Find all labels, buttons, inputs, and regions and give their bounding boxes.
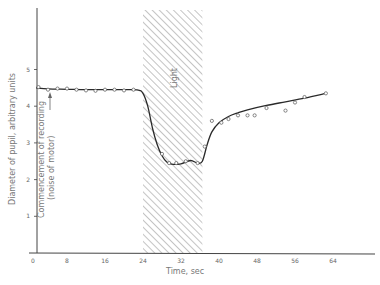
data-point [293,101,296,104]
x-tick-label: 56 [291,257,299,264]
x-tick-label: 24 [139,257,147,264]
light-stimulus-region [143,10,202,253]
data-point [210,119,213,122]
data-point [220,121,223,124]
y-tick-label: 1 [26,212,30,219]
x-tick-label: 0 [31,257,35,264]
data-point [265,106,268,109]
data-point [236,114,239,117]
x-axis-title: Time, sec [165,267,204,276]
data-point [227,117,230,120]
data-point [75,88,78,91]
data-point [46,88,49,91]
data-point [113,88,116,91]
x-tick-label: 64 [329,257,337,264]
data-point [175,161,178,164]
data-point [253,114,256,117]
y-tick-label: 3 [26,139,30,146]
x-tick-label: 40 [215,257,223,264]
data-point [160,152,163,155]
arrowhead-icon [48,92,52,98]
data-point [284,109,287,112]
x-tick-label: 48 [253,257,261,264]
data-point [196,161,199,164]
data-point [122,89,125,92]
data-point [65,87,68,90]
pupil-diameter-chart: 123450816243240485664 Light Commencement… [0,0,380,285]
y-tick-label: 4 [26,102,30,109]
annotation-commencement: Commencement of recording [37,101,46,218]
x-axis-line [29,253,375,254]
data-point [203,145,206,148]
light-region-label: Light [170,68,179,88]
x-tick-label: 16 [101,257,109,264]
data-point [168,161,171,164]
data-point [324,92,327,95]
data-point [303,95,306,98]
hatched-light-band [143,10,202,253]
data-point [246,114,249,117]
data-point [84,89,87,92]
data-point [56,87,59,90]
y-axis-title: Diameter of pupil, arbitrary units [8,73,17,205]
data-point [132,88,135,91]
data-point [37,86,40,89]
y-tick-label: 2 [26,176,30,183]
x-tick-label: 8 [65,257,69,264]
annotation-noise-of-motor: (noise of motor) [47,136,56,200]
data-point [184,160,187,163]
data-point [103,88,106,91]
data-point [94,89,97,92]
y-tick-label: 5 [26,66,30,73]
x-tick-label: 32 [177,257,185,264]
